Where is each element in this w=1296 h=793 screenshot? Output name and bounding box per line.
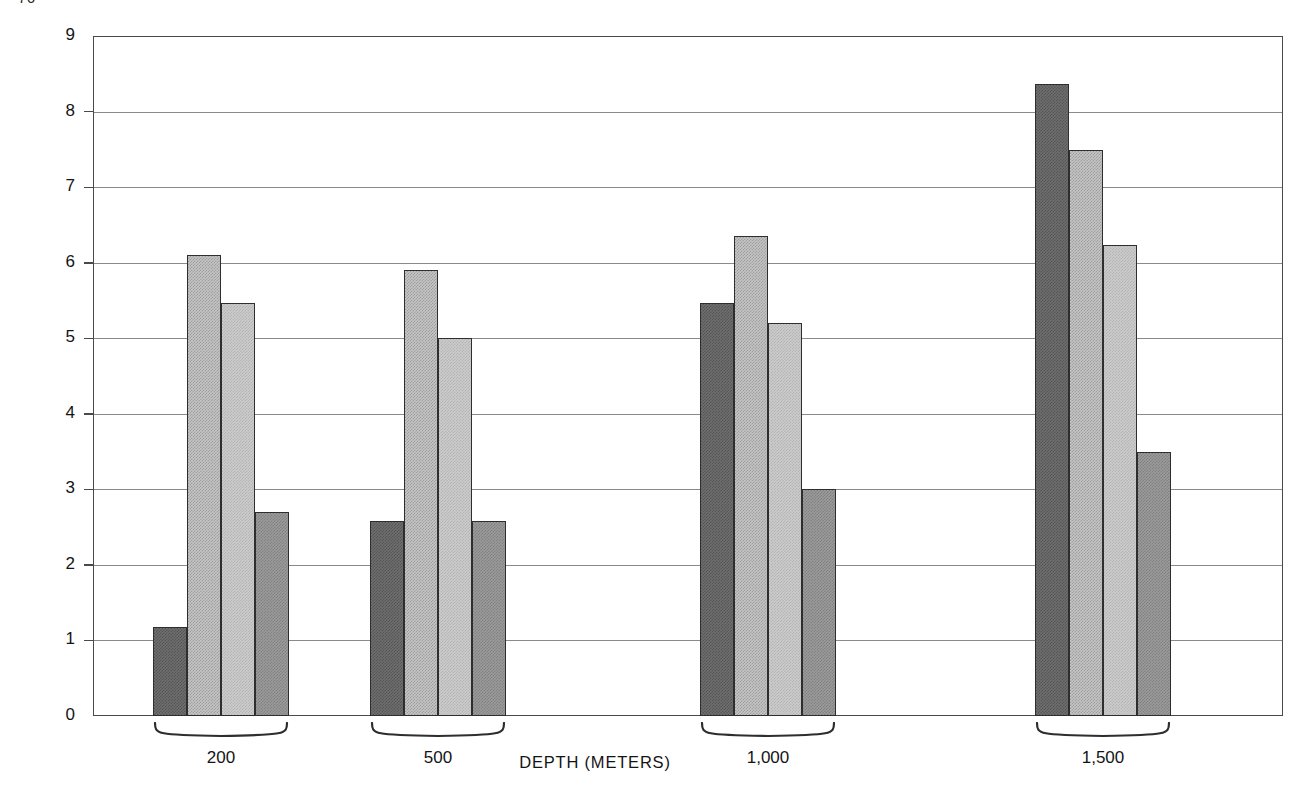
bar — [187, 255, 221, 716]
y-tick-mark — [84, 413, 93, 414]
y-tick-label: 4 — [31, 403, 75, 423]
x-axis-title: DEPTH (METERS) — [445, 753, 745, 772]
bar — [472, 521, 506, 716]
y-tick-label: 7 — [31, 176, 75, 196]
y-tick-label: 0 — [31, 705, 75, 725]
bar — [1069, 150, 1103, 716]
bar — [1137, 452, 1171, 716]
y-tick-mark — [84, 564, 93, 565]
y-tick-mark — [84, 111, 93, 112]
y-tick-label: 2 — [31, 554, 75, 574]
bar — [802, 489, 836, 716]
y-tick-mark — [84, 187, 93, 188]
bar — [404, 270, 438, 716]
y-tick-label: 6 — [31, 252, 75, 272]
bar — [734, 236, 768, 716]
bar — [153, 627, 187, 716]
y-tick-mark — [84, 262, 93, 263]
y-tick-mark — [84, 640, 93, 641]
bar — [438, 338, 472, 716]
y-tick-label: 5 — [31, 327, 75, 347]
bar — [768, 323, 802, 716]
y-tick-mark — [84, 338, 93, 339]
category-label: 200 — [113, 748, 329, 768]
y-tick-mark — [84, 489, 93, 490]
gridline — [94, 112, 1282, 113]
y-tick-label: 9 — [31, 25, 75, 45]
category-label: 1,500 — [995, 748, 1211, 768]
category-brace — [370, 722, 506, 744]
category-brace — [1035, 722, 1171, 744]
y-tick-label: 1 — [31, 629, 75, 649]
category-brace — [153, 722, 289, 744]
y-tick-label: 3 — [31, 478, 75, 498]
gridline — [94, 187, 1282, 188]
category-brace — [700, 722, 836, 744]
page-folio: 76 — [18, 0, 36, 6]
bar — [1035, 84, 1069, 716]
bar — [221, 303, 255, 716]
bar — [1103, 245, 1137, 716]
bar — [255, 512, 289, 716]
y-tick-label: 8 — [31, 101, 75, 121]
chart-page: 76 TIME (MINUTES) 0123456789 2005001,000… — [0, 0, 1296, 793]
bar — [700, 303, 734, 716]
bar — [370, 521, 404, 716]
